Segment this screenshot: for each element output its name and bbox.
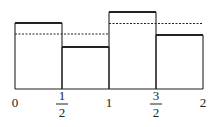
tick-label-half-num: 1: [59, 88, 66, 103]
tick-label-1: 1: [106, 95, 113, 110]
tick-label-three-halves-den: 2: [153, 105, 160, 120]
tick-label-0: 0: [12, 95, 19, 110]
step-function-diagram: 0 1 2 1 3 2 2: [0, 0, 217, 127]
tick-label-half-den: 2: [59, 105, 66, 120]
tick-label-2: 2: [200, 95, 207, 110]
tick-label-three-halves-num: 3: [153, 88, 160, 103]
x-axis-labels: 0 1 2 1 3 2 2: [12, 88, 207, 120]
